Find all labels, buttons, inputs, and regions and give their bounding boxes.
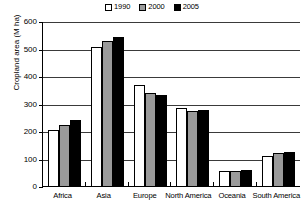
bar-2000-africa xyxy=(59,125,70,186)
bar-1990-north-america xyxy=(176,108,187,186)
legend-swatch-2005-icon xyxy=(174,4,181,11)
y-axis-title: Cropland area (M ha) xyxy=(12,0,21,113)
bar-2000-oceania xyxy=(230,171,241,186)
bar-2005-north-america xyxy=(198,110,209,186)
bar-group xyxy=(214,22,257,186)
bar-2005-africa xyxy=(70,120,81,186)
bar-2000-europe xyxy=(145,93,156,187)
bar-2005-europe xyxy=(156,95,167,186)
bar-group xyxy=(129,22,172,186)
legend-label-2005: 2005 xyxy=(183,3,199,11)
bar-1990-asia xyxy=(91,47,102,186)
legend-label-2000: 2000 xyxy=(148,3,164,11)
legend-item-1990: 1990 xyxy=(105,3,130,11)
y-axis-tick-label: 200 xyxy=(24,128,37,136)
bar-group xyxy=(43,22,86,186)
x-axis-label: Africa xyxy=(42,191,83,200)
legend-swatch-1990-icon xyxy=(105,4,112,11)
y-axis-tick xyxy=(39,187,43,188)
bar-group xyxy=(257,22,300,186)
x-axis-label: Europe xyxy=(124,191,165,200)
x-axis-label: South America xyxy=(253,191,300,200)
y-axis-tick-label: 600 xyxy=(24,18,37,26)
bar-1990-oceania xyxy=(219,171,230,186)
x-axis-label: North America xyxy=(165,191,211,200)
y-axis-tick-label: 100 xyxy=(24,156,37,164)
bar-chart-figure: 1990 2000 2005 Cropland area (M ha) 0100… xyxy=(0,0,304,209)
x-axis-label: Oceania xyxy=(211,191,252,200)
bar-2005-asia xyxy=(113,37,124,186)
bar-group xyxy=(86,22,129,186)
bar-2000-north-america xyxy=(187,111,198,186)
bar-group xyxy=(171,22,214,186)
x-axis-tick-labels: AfricaAsiaEuropeNorth AmericaOceaniaSout… xyxy=(42,191,300,200)
plot-area: 0100200300400500600 xyxy=(42,22,300,187)
legend-item-2005: 2005 xyxy=(174,3,199,11)
y-axis-tick-label: 0 xyxy=(33,183,37,191)
y-axis-tick-label: 500 xyxy=(24,46,37,54)
x-axis-label: Asia xyxy=(83,191,124,200)
y-axis-tick-label: 400 xyxy=(24,73,37,81)
bar-2000-asia xyxy=(102,41,113,186)
bar-1990-europe xyxy=(134,85,145,186)
legend-swatch-2000-icon xyxy=(139,4,146,11)
bar-2005-south-america xyxy=(284,152,295,186)
y-axis-tick-label: 300 xyxy=(24,101,37,109)
bar-2005-oceania xyxy=(241,170,252,186)
bar-groups xyxy=(43,22,300,186)
bar-2000-south-america xyxy=(273,153,284,186)
bar-1990-south-america xyxy=(262,156,273,186)
legend-label-1990: 1990 xyxy=(114,3,130,11)
chart-legend: 1990 2000 2005 xyxy=(0,3,304,11)
legend-item-2000: 2000 xyxy=(139,3,164,11)
bar-1990-africa xyxy=(48,130,59,186)
